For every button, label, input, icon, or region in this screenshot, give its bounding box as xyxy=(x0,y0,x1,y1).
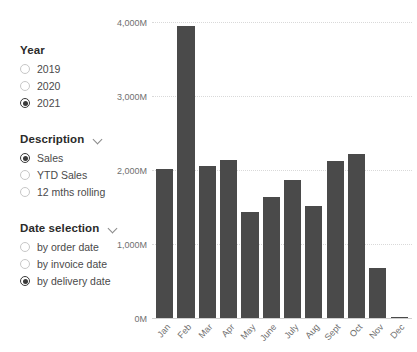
bar[interactable] xyxy=(391,317,408,318)
x-axis-tick-label: Dec xyxy=(389,322,407,341)
radio-option-label: 2021 xyxy=(37,97,60,109)
radio-option-label: by invoice date xyxy=(37,258,107,270)
bar-chart-plot: 0M1,000M2,000M3,000M4,000M JanFebMarAprM… xyxy=(152,22,412,318)
x-axis-tick-label: Jan xyxy=(155,322,172,339)
bar-slot: Oct xyxy=(346,22,367,318)
x-axis-tick-label: Nov xyxy=(367,322,385,341)
radio-option-label: by order date xyxy=(37,241,99,253)
radio-unchecked-icon[interactable] xyxy=(20,187,30,197)
filter-group-description: DescriptionSalesYTD Sales12 mths rolling xyxy=(0,133,128,200)
y-axis-tick-label: 1,000M xyxy=(117,240,147,250)
bar-slot: Aug xyxy=(303,22,324,318)
bar[interactable] xyxy=(177,26,194,318)
chart-panel: 0M1,000M2,000M3,000M4,000M JanFebMarAprM… xyxy=(128,0,417,352)
filter-group-date-selection: Date selectionby order dateby invoice da… xyxy=(0,222,128,289)
radio-unchecked-icon[interactable] xyxy=(20,242,30,252)
x-axis-tick-label: June xyxy=(258,322,279,343)
bar[interactable] xyxy=(284,180,301,318)
radio-unchecked-icon[interactable] xyxy=(20,259,30,269)
radio-option[interactable]: 12 mths rolling xyxy=(20,184,128,200)
bar[interactable] xyxy=(348,154,365,318)
filter-group-header-year: Year xyxy=(20,44,128,56)
radio-option[interactable]: 2020 xyxy=(20,78,128,94)
radio-option[interactable]: 2019 xyxy=(20,61,128,77)
chevron-down-icon[interactable] xyxy=(93,134,104,145)
y-axis-tick-label: 2,000M xyxy=(117,166,147,176)
y-axis-tick-label: 4,000M xyxy=(117,18,147,28)
bar-slot: Jan xyxy=(154,22,175,318)
bar[interactable] xyxy=(156,169,173,318)
bar[interactable] xyxy=(327,161,344,318)
bar-slot: Mar xyxy=(197,22,218,318)
radio-checked-icon[interactable] xyxy=(20,98,30,108)
radio-unchecked-icon[interactable] xyxy=(20,64,30,74)
chevron-down-icon[interactable] xyxy=(108,223,119,234)
bar[interactable] xyxy=(199,166,216,318)
x-axis-tick-label: Sept xyxy=(323,322,343,342)
bar-slot: Feb xyxy=(175,22,196,318)
x-axis-tick-label: Aug xyxy=(303,322,321,341)
bar-slot: Apr xyxy=(218,22,239,318)
radio-option-label: 2020 xyxy=(37,80,60,92)
filter-group-year: Year201920202021 xyxy=(0,44,128,111)
filter-group-header-date-selection[interactable]: Date selection xyxy=(20,222,128,234)
x-axis-tick-label: Oct xyxy=(347,322,364,339)
x-axis-tick-label: July xyxy=(282,322,300,341)
filter-group-title: Description xyxy=(20,133,84,145)
filter-group-title: Year xyxy=(20,44,45,56)
radio-option[interactable]: by invoice date xyxy=(20,256,128,272)
y-axis-tick-label: 3,000M xyxy=(117,92,147,102)
bar-slot: June xyxy=(261,22,282,318)
bar-slot: Sept xyxy=(325,22,346,318)
radio-option-label: 2019 xyxy=(37,63,60,75)
y-axis-tick-label: 0M xyxy=(134,314,147,324)
radio-checked-icon[interactable] xyxy=(20,276,30,286)
radio-option-label: 12 mths rolling xyxy=(37,186,105,198)
radio-option[interactable]: 2021 xyxy=(20,95,128,111)
radio-checked-icon[interactable] xyxy=(20,153,30,163)
y-gridline: 0M xyxy=(152,318,412,319)
bar-slot: May xyxy=(239,22,260,318)
radio-unchecked-icon[interactable] xyxy=(20,81,30,91)
radio-unchecked-icon[interactable] xyxy=(20,170,30,180)
x-axis-tick-label: Feb xyxy=(176,322,194,340)
bar[interactable] xyxy=(220,160,237,318)
x-axis-tick-label: May xyxy=(239,322,258,341)
radio-option-label: Sales xyxy=(37,152,63,164)
filter-group-header-description[interactable]: Description xyxy=(20,133,128,145)
bar[interactable] xyxy=(263,197,280,318)
radio-option-label: YTD Sales xyxy=(37,169,87,181)
x-axis-tick-label: Mar xyxy=(197,322,215,340)
bar[interactable] xyxy=(305,206,322,318)
x-axis-tick-label: Apr xyxy=(219,322,236,339)
filter-panel: Year201920202021DescriptionSalesYTD Sale… xyxy=(0,0,128,352)
bar-series-sales: JanFebMarAprMayJuneJulyAugSeptOctNovDec xyxy=(152,22,412,318)
bar-slot: Nov xyxy=(367,22,388,318)
radio-option[interactable]: by delivery date xyxy=(20,273,128,289)
bar[interactable] xyxy=(369,268,386,318)
dashboard-root: Year201920202021DescriptionSalesYTD Sale… xyxy=(0,0,417,352)
radio-option[interactable]: Sales xyxy=(20,150,128,166)
radio-option[interactable]: YTD Sales xyxy=(20,167,128,183)
radio-option-label: by delivery date xyxy=(37,275,111,287)
radio-option[interactable]: by order date xyxy=(20,239,128,255)
filter-group-title: Date selection xyxy=(20,222,99,234)
bar-slot: July xyxy=(282,22,303,318)
bar[interactable] xyxy=(241,212,258,318)
filter-groups: Year201920202021DescriptionSalesYTD Sale… xyxy=(0,44,128,289)
bar-slot: Dec xyxy=(389,22,410,318)
